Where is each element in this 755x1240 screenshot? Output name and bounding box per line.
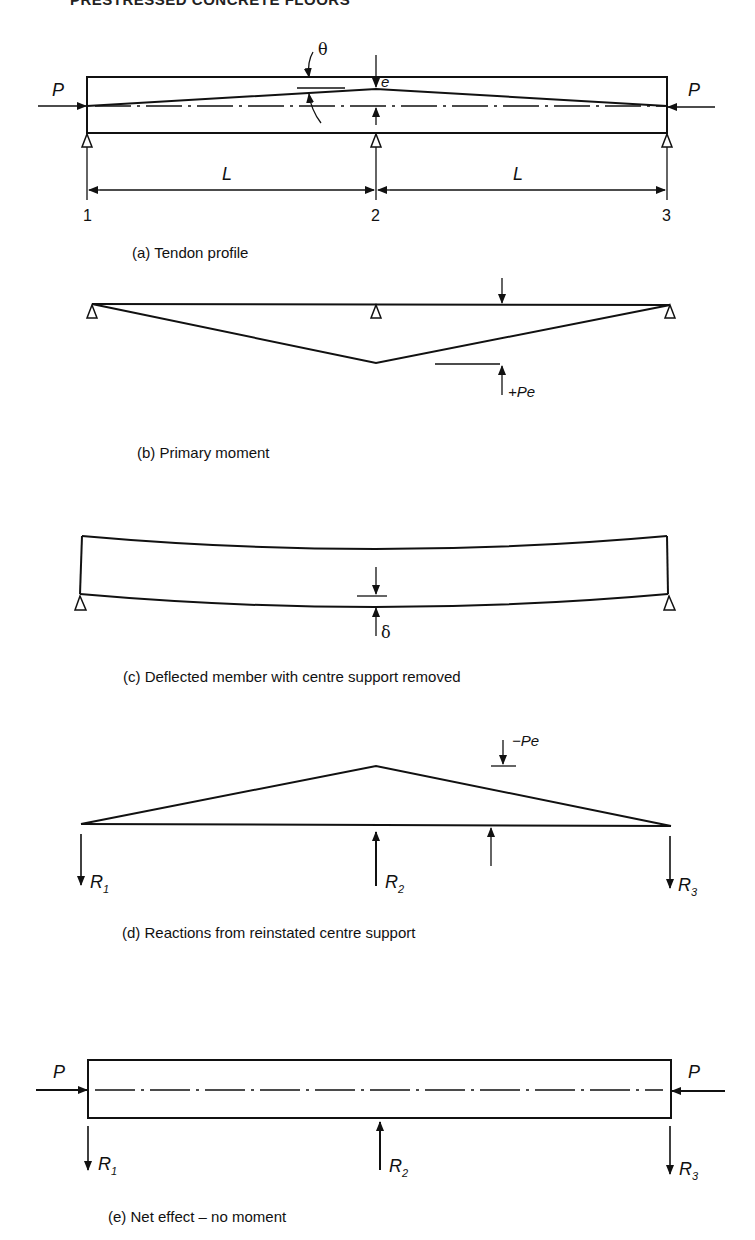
caption-a: (a) Tendon profile — [132, 244, 248, 261]
caption-c: (c) Deflected member with centre support… — [123, 668, 461, 685]
panel-a-tendon-profile: P P θ e L L 1 2 3 (a) Tendon profile — [38, 40, 715, 261]
support-icon — [665, 305, 675, 318]
moment-diagram — [92, 304, 670, 363]
support-icon — [87, 305, 97, 318]
baseline — [81, 824, 671, 826]
support-number-1: 1 — [83, 207, 92, 224]
force-label-left: P — [53, 1062, 65, 1082]
reaction-label-1: R1 — [98, 1154, 117, 1177]
caption-d: (d) Reactions from reinstated centre sup… — [122, 924, 416, 941]
eccentricity-label: e — [381, 73, 389, 90]
support-icon — [662, 134, 672, 147]
deflection-label: δ — [381, 623, 391, 642]
support-icon — [75, 596, 86, 610]
support-number-2: 2 — [371, 207, 380, 224]
moment-label: −Pe — [512, 732, 539, 749]
theta-label: θ — [318, 40, 328, 59]
panel-b-primary-moment: +Pe (b) Primary moment — [87, 278, 675, 461]
beam-outline — [87, 77, 667, 133]
span-label-right: L — [513, 164, 523, 184]
reaction-label-3: R3 — [678, 875, 698, 898]
support-icon — [371, 305, 381, 318]
caption-e: (e) Net effect – no moment — [108, 1208, 287, 1225]
support-icon — [371, 134, 381, 147]
support-number-3: 3 — [662, 207, 671, 224]
reaction-label-2: R2 — [389, 1156, 408, 1179]
beam-outline — [88, 1060, 671, 1118]
reaction-label-3: R3 — [679, 1159, 699, 1182]
force-label-right: P — [688, 80, 700, 100]
secondary-moment-diagram — [81, 766, 671, 826]
theta-arrow-top — [309, 52, 314, 77]
tendon-line — [87, 89, 667, 106]
deflected-top-edge — [82, 536, 667, 549]
panel-d-reactions: −Pe R1 R2 R3 (d) Reactions from reinstat… — [81, 732, 698, 941]
continuous-beam-figure: P P θ e L L 1 2 3 (a) Tendon profile — [0, 0, 755, 1240]
reaction-label-1: R1 — [90, 872, 109, 895]
theta-arrow-bottom — [309, 94, 321, 123]
panel-e-net-effect: P P R1 R2 R3 (e) Net effect – no moment — [36, 1060, 725, 1225]
reaction-label-2: R2 — [385, 872, 404, 895]
support-icon — [82, 134, 92, 147]
panel-c-deflected-member: δ (c) Deflected member with centre suppo… — [75, 536, 675, 685]
force-label-right: P — [688, 1062, 700, 1082]
support-icon — [664, 596, 675, 610]
baseline — [92, 304, 670, 305]
force-label-left: P — [52, 80, 64, 100]
caption-b: (b) Primary moment — [137, 444, 270, 461]
moment-label: +Pe — [508, 383, 535, 400]
span-label-left: L — [222, 164, 232, 184]
